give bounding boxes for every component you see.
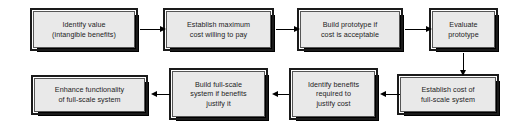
node-build-prototype[interactable]: Build prototype if cost is acceptable	[300, 11, 400, 48]
connector-build-full-scale-to-enhance-functionality	[156, 94, 170, 95]
node-label: Identify value (intangible benefits)	[49, 20, 119, 39]
node-enhance-functionality[interactable]: Enhance functionality of full-scale syst…	[34, 78, 145, 112]
node-label: Build prototype if cost is acceptable	[318, 20, 382, 39]
node-evaluate-prototype[interactable]: Evaluate prototype	[432, 11, 495, 48]
connector-build-prototype-to-evaluate-prototype	[405, 29, 427, 30]
node-identify-value[interactable]: Identify value (intangible benefits)	[33, 11, 135, 48]
arrow-head-left-icon	[151, 91, 157, 97]
node-identify-benefits[interactable]: Identify benefits required to justify co…	[292, 71, 375, 117]
node-establish-cost-full-scale[interactable]: Establish cost of full-scale system	[400, 77, 496, 112]
arrow-head-right-icon	[426, 26, 432, 32]
node-establish-maximum-cost[interactable]: Establish maximum cost willing to pay	[166, 11, 271, 48]
node-build-full-scale[interactable]: Build full-scale system if benefits just…	[172, 71, 265, 117]
arrow-head-right-icon	[294, 26, 300, 32]
node-label: Establish cost of full-scale system	[418, 85, 478, 104]
flowchart-canvas: Identify value (intangible benefits) Est…	[0, 0, 518, 132]
node-label: Build full-scale system if benefits just…	[187, 80, 249, 109]
connector-identify-value-to-establish-maximum-cost	[140, 29, 161, 30]
arrow-head-down-icon	[460, 70, 466, 76]
arrow-head-left-icon	[380, 91, 386, 97]
connector-establish-cost-full-scale-to-identify-benefits	[385, 94, 400, 95]
node-label: Establish maximum cost willing to pay	[184, 20, 253, 39]
node-label: Enhance functionality of full-scale syst…	[52, 85, 127, 104]
arrow-head-right-icon	[160, 26, 166, 32]
node-label: Identify benefits required to justify co…	[305, 80, 362, 109]
node-label: Evaluate prototype	[445, 20, 481, 39]
arrow-head-left-icon	[272, 91, 278, 97]
connector-identify-benefits-to-build-full-scale	[277, 94, 289, 95]
connector-establish-maximum-cost-to-build-prototype	[276, 29, 295, 30]
